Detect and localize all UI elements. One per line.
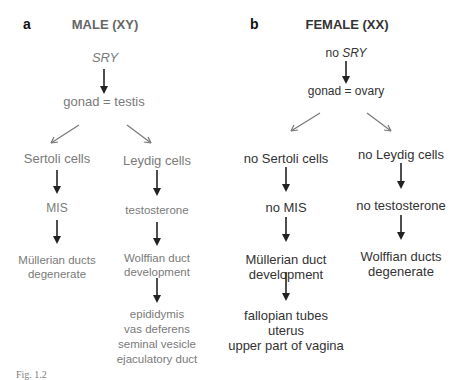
leydig-cells: Leydig cells: [123, 154, 191, 169]
development-b: development: [249, 268, 323, 283]
epididymis: epididymis: [130, 308, 184, 321]
ejaculatory-duct: ejaculatory duct: [117, 353, 198, 366]
panel-a-label: a: [23, 16, 31, 32]
sertoli-cells: Sertoli cells: [24, 152, 90, 167]
panel-a-title: MALE (XY): [72, 18, 138, 33]
wolffian-ducts: Wolffian ducts: [360, 250, 441, 265]
degenerate-b: degenerate: [368, 265, 434, 280]
no-sertoli-cells: no Sertoli cells: [244, 152, 329, 167]
seminal-vesicle: seminal vesicle: [118, 338, 196, 351]
no-prefix: no: [326, 46, 343, 60]
mullerian-ducts: Müllerian ducts: [18, 254, 95, 267]
testosterone: testosterone: [125, 204, 188, 217]
mis: MIS: [46, 202, 67, 216]
gonad-testis: gonad = testis: [63, 95, 144, 110]
mullerian-duct: Müllerian duct: [246, 253, 327, 268]
no-mis: no MIS: [265, 201, 306, 216]
panel-b-label: b: [250, 16, 259, 32]
development-a: development: [124, 266, 190, 279]
no-leydig-cells: no Leydig cells: [358, 148, 444, 163]
fallopian-tubes: fallopian tubes: [244, 309, 328, 324]
uterus: uterus: [268, 324, 304, 339]
degenerate-a: degenerate: [28, 268, 86, 281]
vas-deferens: vas deferens: [124, 323, 190, 336]
gonad-ovary: gonad = ovary: [308, 85, 384, 99]
sry-gene-b: SRY: [342, 46, 366, 60]
panel-b-title: FEMALE (XX): [305, 18, 388, 33]
upper-part-of-vagina: upper part of vagina: [228, 339, 344, 354]
no-testosterone: no testosterone: [356, 199, 446, 214]
sry-gene: SRY: [92, 51, 118, 66]
wolffian-duct: Wolffian duct: [124, 252, 190, 265]
figure-caption: Fig. 1.2: [16, 369, 47, 380]
no-sry: no SRY: [326, 47, 367, 61]
